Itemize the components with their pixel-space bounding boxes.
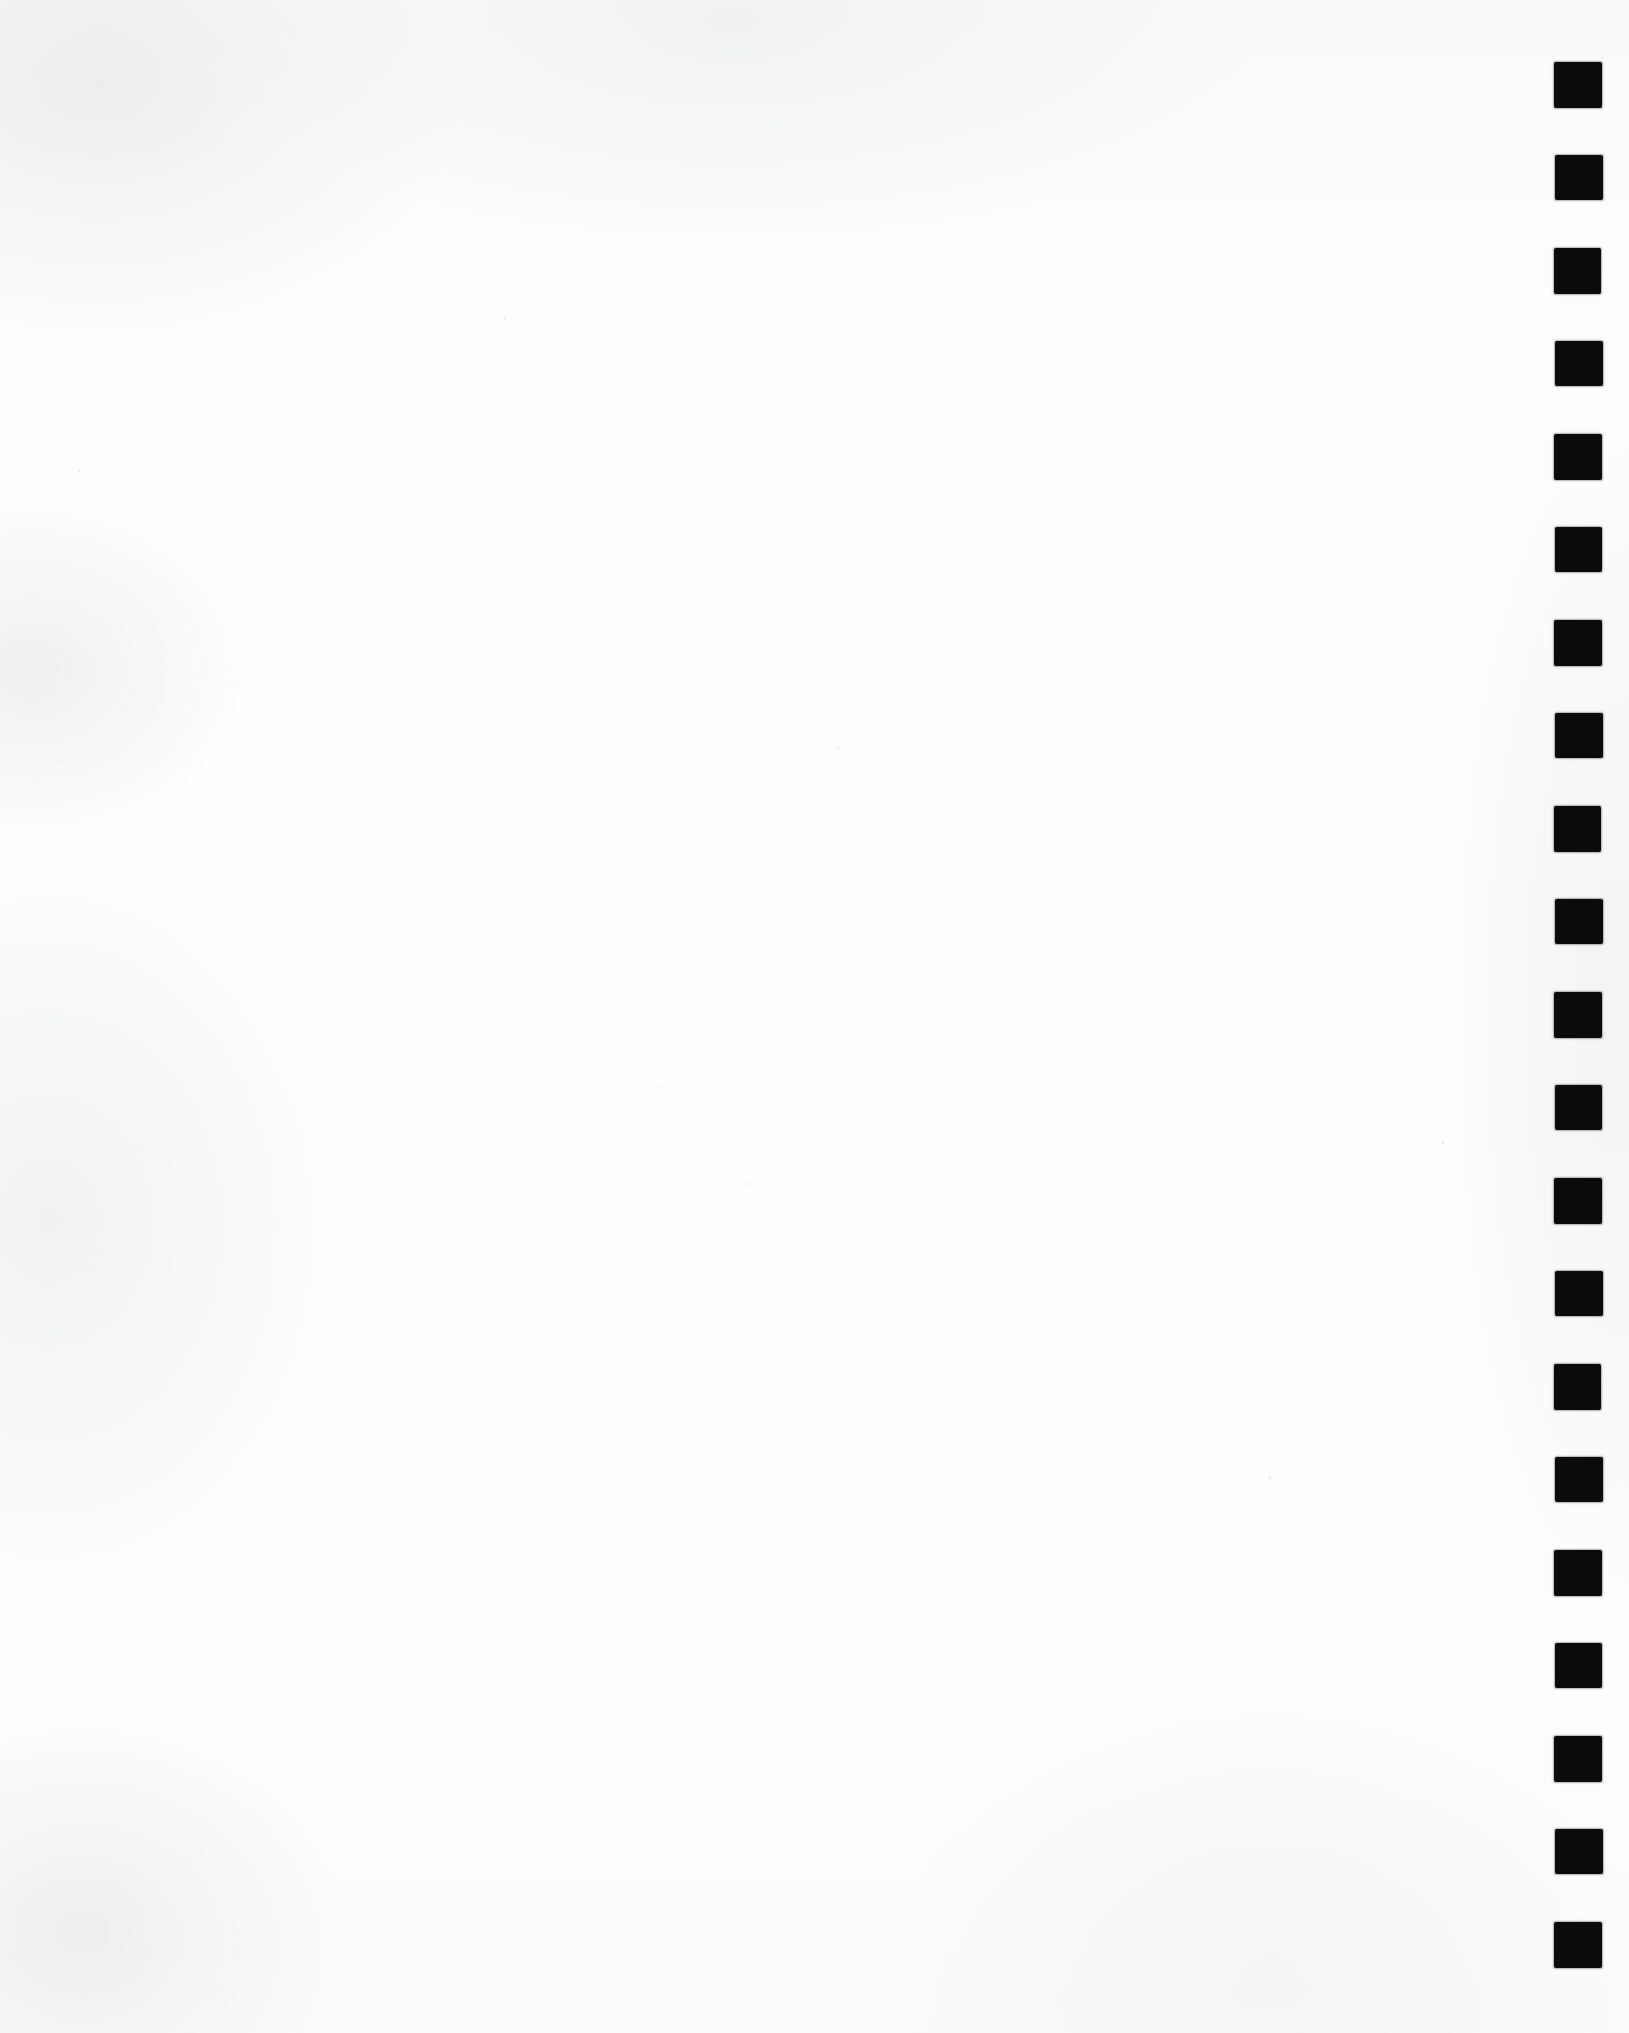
registration-mark-square	[1555, 1085, 1602, 1130]
registration-mark-square	[1555, 713, 1603, 758]
registration-mark-square	[1554, 1178, 1602, 1224]
registration-mark-square	[1554, 1736, 1602, 1782]
registration-mark-square	[1554, 1550, 1602, 1596]
registration-mark-square	[1554, 1364, 1601, 1410]
registration-mark-square	[1555, 341, 1603, 386]
registration-mark-square	[1555, 1271, 1603, 1316]
registration-mark-square	[1555, 1643, 1602, 1688]
registration-mark-square	[1555, 527, 1602, 572]
registration-mark-square	[1554, 248, 1601, 294]
registration-mark-square	[1554, 620, 1602, 666]
registration-mark-square	[1555, 1457, 1603, 1502]
registration-mark-square	[1555, 1829, 1603, 1874]
registration-mark-square	[1554, 1922, 1602, 1968]
scanned-page	[0, 0, 1629, 2033]
paper-surface	[0, 0, 1629, 2033]
registration-mark-square	[1554, 62, 1602, 108]
registration-mark-square	[1554, 434, 1602, 480]
registration-mark-square	[1554, 992, 1602, 1038]
registration-mark-square	[1555, 155, 1603, 200]
registration-mark-square	[1555, 899, 1603, 944]
registration-mark-square	[1554, 806, 1601, 852]
